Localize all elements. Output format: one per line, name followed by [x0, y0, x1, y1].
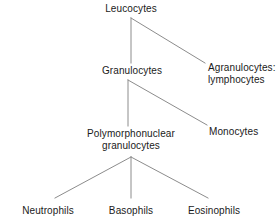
node-eosinophils: Eosinophils — [188, 205, 240, 217]
node-monocytes: Monocytes — [209, 126, 258, 138]
node-basophils: Basophils — [109, 205, 153, 217]
edge-pmn-to-neutrophils — [55, 157, 131, 198]
node-granulocytes: Granulocytes — [102, 65, 162, 77]
edge-granulocytes-to-monocytes — [128, 80, 207, 125]
node-eosinophils-label: Eosinophils — [188, 205, 240, 217]
edge-leucocytes-to-agranulocytes — [131, 18, 205, 63]
node-leucocytes: Leucocytes — [105, 3, 157, 15]
node-polymorphonuclear-granulocytes-label-line2: granulocytes — [87, 140, 175, 152]
diagram-edges — [0, 0, 280, 224]
node-basophils-label: Basophils — [109, 205, 153, 217]
node-neutrophils: Neutrophils — [22, 205, 74, 217]
node-agranulocytes-label: Agranulocytes: — [208, 62, 276, 74]
node-agranulocytes-label-line2: lymphocytes — [208, 74, 276, 86]
node-leucocytes-label: Leucocytes — [105, 3, 157, 15]
leucocyte-classification-diagram: Leucocytes Granulocytes Agranulocytes: l… — [0, 0, 280, 224]
node-monocytes-label: Monocytes — [209, 126, 258, 138]
node-polymorphonuclear-granulocytes-label: Polymorphonuclear — [87, 128, 175, 140]
node-granulocytes-label: Granulocytes — [102, 65, 162, 77]
edge-pmn-to-eosinophils — [131, 157, 208, 198]
node-neutrophils-label: Neutrophils — [22, 205, 74, 217]
node-polymorphonuclear-granulocytes: Polymorphonuclear granulocytes — [87, 128, 175, 151]
node-agranulocytes: Agranulocytes: lymphocytes — [208, 62, 276, 85]
